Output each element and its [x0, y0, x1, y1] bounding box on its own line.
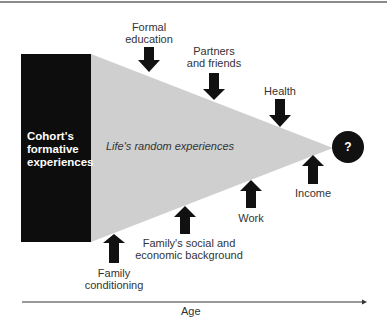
label-line: economic background — [134, 249, 244, 261]
age-axis-label: Age — [181, 305, 201, 317]
label-line: education — [123, 33, 175, 45]
arrow-up-icon — [240, 180, 262, 208]
label-health: Health — [258, 85, 302, 97]
label-family-conditioning: Family conditioning — [84, 267, 144, 291]
label-line: Formal — [123, 21, 175, 33]
label-line: Health — [258, 85, 302, 97]
label-line: Work — [232, 212, 270, 224]
label-work: Work — [232, 212, 270, 224]
label-line: Partners — [184, 45, 244, 57]
cohort-label: Cohort's formative experiences — [27, 130, 94, 169]
arrow-down-icon — [138, 47, 160, 72]
arrow-up-icon — [103, 234, 125, 263]
label-line: Family's social and — [134, 237, 244, 249]
cohort-label-line: experiences — [27, 156, 94, 169]
life-random-label: Life's random experiences — [106, 140, 234, 152]
label-formal-education: Formal education — [123, 21, 175, 45]
label-line: and friends — [184, 57, 244, 69]
cohort-label-line: formative — [27, 143, 94, 156]
label-line: Family — [84, 267, 144, 279]
label-family-background: Family's social and economic background — [134, 237, 244, 261]
axis-arrowhead-icon — [362, 300, 367, 305]
outcome-circle: ? — [332, 131, 364, 163]
label-line: conditioning — [84, 279, 144, 291]
arrow-up-icon — [174, 206, 196, 234]
arrow-up-icon — [302, 155, 324, 184]
label-line: Income — [291, 187, 335, 199]
label-income: Income — [291, 187, 335, 199]
arrow-down-icon — [269, 99, 291, 127]
arrow-down-icon — [203, 73, 225, 100]
label-partners-friends: Partners and friends — [184, 45, 244, 69]
cohort-label-line: Cohort's — [27, 130, 94, 143]
